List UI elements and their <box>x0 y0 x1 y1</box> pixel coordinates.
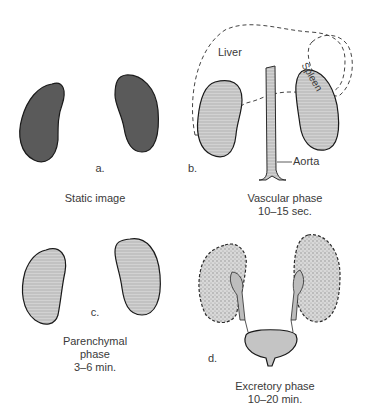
right-kidney-parenchymal <box>115 239 160 315</box>
left-kidney-static <box>20 83 64 162</box>
panel-d-excretory <box>199 235 340 366</box>
panel-c-caption-line2: phase <box>40 348 150 361</box>
panel-a-kidneys <box>20 75 159 162</box>
panel-a-letter: a. <box>85 162 115 175</box>
panel-d-letter: d. <box>208 352 228 365</box>
left-kidney-parenchymal <box>22 249 65 324</box>
panel-c-letter: c. <box>85 306 105 319</box>
panel-b-caption-line2: 10–15 sec. <box>230 205 340 218</box>
panel-a-caption: Static image <box>40 192 150 205</box>
panel-d-caption-line1: Excretory phase <box>220 380 330 393</box>
left-kidney-vascular <box>198 81 242 157</box>
liver-label: Liver <box>218 46 258 59</box>
panel-b-caption-line1: Vascular phase <box>230 192 340 205</box>
panel-b-letter: b. <box>188 162 208 175</box>
aorta <box>259 66 286 180</box>
right-kidney-static <box>115 75 158 152</box>
panel-c-caption-line1: Parenchymal <box>40 335 150 348</box>
panel-d-caption-line2: 10–20 min. <box>220 393 330 406</box>
aorta-label: Aorta <box>293 155 333 168</box>
bladder <box>245 330 297 366</box>
panel-c-caption-line3: 3–6 min. <box>40 361 150 374</box>
